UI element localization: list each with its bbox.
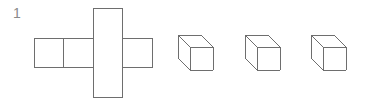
question-number-label: 1	[13, 4, 21, 22]
cube-option-a	[178, 35, 213, 70]
cube-back-bottom-left-edge	[245, 58, 257, 70]
cube-depth-edge-top-left	[311, 35, 323, 47]
figure-container: 1	[0, 0, 386, 103]
cube-depth-edge-top-right	[268, 35, 280, 47]
cube-net-cross	[34, 9, 152, 98]
cube-option-c	[311, 35, 346, 70]
cube-back-bottom-left-edge	[311, 58, 323, 70]
geometry-figure	[0, 0, 386, 103]
cube-back-bottom-left-edge	[178, 58, 190, 70]
cube-depth-edge-top-right	[201, 35, 213, 47]
cube-depth-edge-top-left	[178, 35, 190, 47]
cube-option-b	[245, 35, 280, 70]
cube-depth-edge-top-right	[334, 35, 346, 47]
cube-depth-edge-top-left	[245, 35, 257, 47]
cube-options-group	[178, 35, 346, 70]
